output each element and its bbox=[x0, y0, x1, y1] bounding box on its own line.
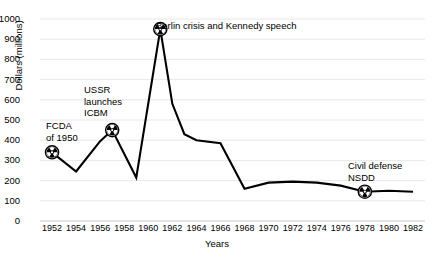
annotation-icbm-label: USSR launches ICBM bbox=[84, 84, 122, 119]
y-axis-tick-label: 900 bbox=[0, 34, 20, 44]
annotation-berlin-label: Berlin crisis and Kennedy speech bbox=[156, 20, 296, 32]
civil-defense-funding-chart: Dollars (millions) Years 010020030040050… bbox=[0, 0, 434, 259]
y-axis-tick-label: 0 bbox=[0, 216, 20, 226]
y-axis-tick-label: 200 bbox=[0, 176, 20, 186]
plot-area bbox=[40, 19, 425, 221]
radiation-symbol-icon bbox=[45, 146, 58, 159]
y-axis-tick-label: 300 bbox=[0, 156, 20, 166]
y-axis-tick-label: 400 bbox=[0, 135, 20, 145]
x-axis-title: Years bbox=[0, 238, 434, 249]
radiation-symbol-icon bbox=[358, 185, 371, 198]
y-axis-tick-label: 600 bbox=[0, 95, 20, 105]
annotation-fcda-label: FCDA of 1950 bbox=[46, 120, 78, 143]
x-axis-tick-label: 1982 bbox=[393, 224, 433, 233]
y-axis-tick-label: 1000 bbox=[0, 14, 20, 24]
y-axis-tick-label: 700 bbox=[0, 75, 20, 85]
annotation-nsdd-label: Civil defense NSDD bbox=[348, 160, 402, 183]
y-axis-tick-label: 500 bbox=[0, 115, 20, 125]
radiation-symbol-icon bbox=[106, 124, 119, 137]
y-axis-tick-label: 800 bbox=[0, 55, 20, 65]
line-chart-svg bbox=[40, 19, 425, 221]
y-axis-tick-label: 100 bbox=[0, 196, 20, 206]
